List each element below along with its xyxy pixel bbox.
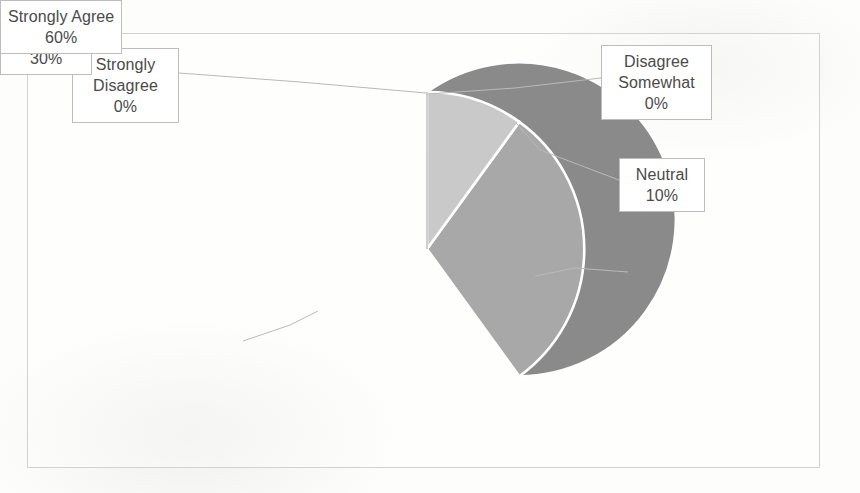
- data-label-strongly-disagree-name2: Disagree: [80, 75, 171, 96]
- data-label-disagree-somewhat-name2: Somewhat: [609, 72, 704, 93]
- data-label-strongly-agree-value: 60%: [8, 27, 114, 48]
- data-label-neutral-name: Neutral: [627, 164, 697, 185]
- data-label-neutral[interactable]: Neutral 10%: [619, 158, 705, 212]
- data-label-strongly-disagree-value: 0%: [80, 96, 171, 117]
- data-label-disagree-somewhat-name: Disagree: [609, 51, 704, 72]
- data-label-strongly-agree-name: Strongly Agree: [8, 6, 114, 27]
- data-label-neutral-value: 10%: [627, 185, 697, 206]
- data-label-strongly-disagree-name: Strongly: [80, 54, 171, 75]
- data-label-strongly-agree[interactable]: Strongly Agree 60%: [0, 0, 122, 54]
- data-label-disagree-somewhat[interactable]: Disagree Somewhat 0%: [601, 45, 712, 120]
- data-label-disagree-somewhat-value: 0%: [609, 93, 704, 114]
